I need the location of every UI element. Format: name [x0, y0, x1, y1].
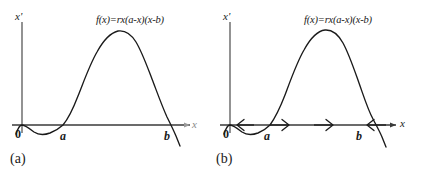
- panel-a-plot: [0, 0, 210, 177]
- panel-b: x' x f(x)=rx(a-x)(x-b) 0 a b (b): [208, 0, 418, 177]
- x-axis-a: [12, 123, 190, 128]
- x-axis-label-b: x: [400, 118, 405, 129]
- tick-label-zero-b: 0: [223, 128, 229, 140]
- tick-label-a-a: a: [60, 130, 66, 142]
- formula-annotation-a: f(x)=rx(a-x)(x-b): [96, 15, 164, 26]
- formula-annotation-b: f(x)=rx(a-x)(x-b): [304, 15, 372, 26]
- phase-arrow-right-ab-2: [314, 120, 333, 131]
- tick-label-zero-a: 0: [15, 128, 21, 140]
- panel-a: x' x f(x)=rx(a-x)(x-b) 0 a b (a): [0, 0, 210, 177]
- x-axis-label-a: x: [192, 119, 197, 130]
- y-axis-label-a: x': [15, 11, 22, 22]
- panel-caption-a: (a): [10, 152, 26, 166]
- tick-label-a-b: a: [264, 130, 270, 142]
- phase-arrow-left-0a: [237, 120, 254, 131]
- tick-label-b-b: b: [356, 130, 362, 142]
- figure-root: x' x f(x)=rx(a-x)(x-b) 0 a b (a): [0, 0, 421, 177]
- panel-b-plot: [208, 0, 420, 177]
- panel-caption-b: (b): [216, 152, 232, 166]
- y-axis-label-b: x': [223, 11, 230, 22]
- tick-label-b-a: b: [164, 130, 170, 142]
- curve-fx-a: [16, 31, 180, 146]
